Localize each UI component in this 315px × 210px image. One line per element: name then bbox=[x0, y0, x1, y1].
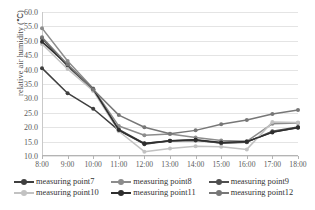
legend-item[interactable]: measuring point11 bbox=[111, 187, 208, 198]
legend-item[interactable]: measuring point7 bbox=[14, 176, 111, 187]
data-point-marker bbox=[270, 120, 274, 124]
series-line bbox=[42, 42, 298, 144]
data-point-marker bbox=[296, 108, 300, 112]
x-axis-tick-label: 14:00 bbox=[187, 160, 204, 169]
legend-marker-icon bbox=[111, 177, 131, 186]
x-axis-tickmark bbox=[196, 156, 197, 159]
y-axis-tick-label: 45.0 bbox=[24, 51, 38, 60]
x-axis-tick-label: 16:00 bbox=[238, 160, 255, 169]
y-axis-tick-label: 40.0 bbox=[24, 65, 38, 74]
data-point-marker bbox=[296, 125, 300, 129]
x-axis-tickmark bbox=[119, 156, 120, 159]
data-point-marker bbox=[66, 62, 70, 66]
x-axis-tickmark bbox=[42, 156, 43, 159]
y-axis-tick-label: 25.0 bbox=[24, 108, 38, 117]
data-point-marker bbox=[40, 35, 44, 39]
y-axis-tick-label: 15.0 bbox=[24, 137, 38, 146]
data-point-marker bbox=[296, 121, 300, 125]
y-axis-tick-label: 30.0 bbox=[24, 94, 38, 103]
legend-marker-icon bbox=[14, 177, 34, 186]
y-axis-tick-label: 20.0 bbox=[24, 123, 38, 132]
legend-item[interactable]: measuring point9 bbox=[209, 176, 306, 187]
legend-item[interactable]: measuring point8 bbox=[111, 176, 208, 187]
legend-marker-icon bbox=[14, 188, 34, 197]
data-point-marker bbox=[194, 128, 198, 132]
data-point-marker bbox=[40, 66, 44, 70]
legend-marker-icon bbox=[209, 188, 229, 197]
legend-dot bbox=[118, 190, 124, 196]
x-axis-tick-label: 12:00 bbox=[136, 160, 153, 169]
legend-label: measuring point10 bbox=[36, 188, 99, 197]
series-measuring-point11 bbox=[40, 40, 300, 146]
chart-legend: measuring point7measuring point8measurin… bbox=[14, 176, 306, 198]
data-point-marker bbox=[142, 125, 146, 129]
data-point-marker bbox=[117, 113, 121, 117]
series-line bbox=[42, 37, 298, 133]
x-axis-tickmark bbox=[298, 156, 299, 159]
data-point-marker bbox=[270, 112, 274, 116]
plot-area: 60.055.050.045.040.035.030.025.020.015.0… bbox=[42, 12, 298, 156]
x-axis-tickmark bbox=[272, 156, 273, 159]
data-point-marker bbox=[91, 107, 95, 111]
humidity-line-chart: relative air humidity (℃) 60.055.050.045… bbox=[0, 0, 315, 210]
y-axis-tick-label: 35.0 bbox=[24, 80, 38, 89]
data-point-marker bbox=[40, 40, 44, 44]
legend-dot bbox=[21, 179, 27, 185]
legend-label: measuring point9 bbox=[231, 177, 289, 186]
data-point-marker bbox=[245, 118, 249, 122]
data-point-marker bbox=[194, 138, 198, 142]
x-axis-tick-label: 17:00 bbox=[264, 160, 281, 169]
legend-dot bbox=[21, 190, 27, 196]
data-point-marker bbox=[117, 128, 121, 132]
series-measuring-point9 bbox=[40, 36, 300, 145]
x-axis-tickmark bbox=[247, 156, 248, 159]
data-point-marker bbox=[168, 139, 172, 143]
y-axis-tick-label: 50.0 bbox=[24, 36, 38, 45]
legend-dot bbox=[216, 179, 222, 185]
x-axis-tick-label: 15:00 bbox=[213, 160, 230, 169]
legend-dot bbox=[216, 190, 222, 196]
data-point-marker bbox=[142, 150, 146, 154]
x-axis-tickmark bbox=[68, 156, 69, 159]
data-point-marker bbox=[219, 122, 223, 126]
x-axis-tick-label: 13:00 bbox=[161, 160, 178, 169]
legend-label: measuring point8 bbox=[133, 177, 191, 186]
x-axis-tick-label: 8:00 bbox=[35, 160, 49, 169]
data-point-marker bbox=[219, 140, 223, 144]
series-measuring-point12 bbox=[40, 35, 300, 135]
x-axis-tickmark bbox=[93, 156, 94, 159]
legend-label: measuring point12 bbox=[231, 188, 294, 197]
x-axis-tickmark bbox=[221, 156, 222, 159]
data-point-marker bbox=[194, 144, 198, 148]
series-measuring-point8 bbox=[40, 26, 300, 143]
legend-label: measuring point7 bbox=[36, 177, 94, 186]
legend-marker-icon bbox=[209, 177, 229, 186]
data-point-marker bbox=[66, 67, 70, 71]
data-point-marker bbox=[245, 147, 249, 151]
x-axis-tick-label: 18:00 bbox=[289, 160, 306, 169]
series-line bbox=[42, 28, 298, 141]
x-axis-tick-label: 10:00 bbox=[85, 160, 102, 169]
legend-marker-icon bbox=[111, 188, 131, 197]
x-axis-tick-label: 11:00 bbox=[110, 160, 127, 169]
data-point-marker bbox=[168, 132, 172, 136]
legend-dot bbox=[118, 179, 124, 185]
data-point-marker bbox=[142, 142, 146, 146]
legend-item[interactable]: measuring point12 bbox=[209, 187, 306, 198]
data-point-marker bbox=[91, 87, 95, 91]
series-line bbox=[42, 38, 298, 143]
legend-item[interactable]: measuring point10 bbox=[14, 187, 111, 198]
x-axis-tick-label: 9:00 bbox=[61, 160, 75, 169]
data-point-marker bbox=[270, 130, 274, 134]
legend-label: measuring point11 bbox=[133, 188, 195, 197]
series-lines bbox=[42, 12, 298, 156]
x-axis-tickmark bbox=[170, 156, 171, 159]
y-axis-tick-label: 55.0 bbox=[24, 22, 38, 31]
data-point-marker bbox=[40, 26, 44, 30]
data-point-marker bbox=[142, 133, 146, 137]
data-point-marker bbox=[219, 145, 223, 149]
data-point-marker bbox=[245, 140, 249, 144]
y-axis-tick-label: 60.0 bbox=[24, 8, 38, 17]
x-axis-tickmark bbox=[144, 156, 145, 159]
data-point-marker bbox=[66, 91, 70, 95]
